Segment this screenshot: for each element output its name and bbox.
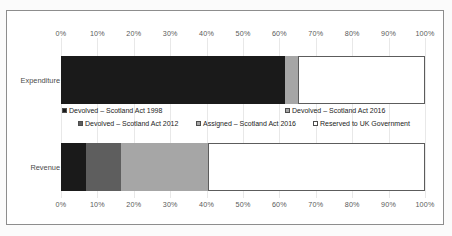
legend-item[interactable]: Devolved – Scotland Act 2016 bbox=[285, 106, 385, 115]
legend-swatch-icon bbox=[196, 121, 201, 126]
legend-label: Devolved – Scotland Act 2016 bbox=[292, 106, 385, 115]
bar-segment-expenditure-4 bbox=[298, 56, 425, 104]
tick-label-100%: 100% bbox=[408, 29, 442, 38]
tick-label-30%: 30% bbox=[153, 29, 187, 38]
bar-expenditure bbox=[0, 56, 452, 104]
legend-label: Devolved – Scotland Act 2012 bbox=[85, 119, 178, 128]
bar-segment-revenue-1 bbox=[86, 143, 121, 191]
legend-label: Assigned – Scotland Act 2016 bbox=[203, 119, 296, 128]
tick-label-30%: 30% bbox=[153, 200, 187, 209]
tick-label-60%: 60% bbox=[262, 200, 296, 209]
bar-segment-revenue-4 bbox=[208, 143, 425, 191]
tick-label-90%: 90% bbox=[372, 29, 406, 38]
legend-swatch-icon bbox=[78, 121, 83, 126]
legend-row-bottom: Devolved – Scotland Act 2012Assigned – S… bbox=[0, 119, 452, 131]
tick-label-50%: 50% bbox=[226, 29, 260, 38]
tick-label-90%: 90% bbox=[372, 200, 406, 209]
legend-item[interactable]: Reserved to UK Government bbox=[313, 119, 410, 128]
chart-figure: 0%10%20%30%40%50%60%70%80%90%100% 0%10%2… bbox=[0, 0, 452, 236]
tick-label-100%: 100% bbox=[408, 200, 442, 209]
tick-label-50%: 50% bbox=[226, 200, 260, 209]
bar-segment-revenue-2 bbox=[121, 143, 208, 191]
tick-label-40%: 40% bbox=[190, 29, 224, 38]
tick-label-20%: 20% bbox=[117, 200, 151, 209]
bar-segment-expenditure-0 bbox=[61, 56, 285, 104]
legend-item[interactable]: Devolved – Scotland Act 1998 bbox=[62, 106, 162, 115]
tick-label-70%: 70% bbox=[299, 200, 333, 209]
legend-label: Devolved – Scotland Act 1998 bbox=[69, 106, 162, 115]
bar-segment-revenue-0 bbox=[61, 143, 86, 191]
bar-revenue bbox=[0, 143, 452, 191]
legend-row-top: Devolved – Scotland Act 1998Devolved – S… bbox=[0, 106, 452, 118]
legend-swatch-icon bbox=[313, 121, 318, 126]
tick-label-10%: 10% bbox=[80, 29, 114, 38]
tick-label-20%: 20% bbox=[117, 29, 151, 38]
tick-label-0%: 0% bbox=[44, 29, 78, 38]
tick-label-0%: 0% bbox=[44, 200, 78, 209]
legend-item[interactable]: Assigned – Scotland Act 2016 bbox=[196, 119, 296, 128]
legend-swatch-icon bbox=[285, 108, 290, 113]
tick-label-60%: 60% bbox=[262, 29, 296, 38]
tick-label-70%: 70% bbox=[299, 29, 333, 38]
legend-swatch-icon bbox=[62, 108, 67, 113]
tick-label-10%: 10% bbox=[80, 200, 114, 209]
legend-label: Reserved to UK Government bbox=[320, 119, 410, 128]
bar-segment-expenditure-2 bbox=[285, 56, 298, 104]
tick-label-80%: 80% bbox=[335, 29, 369, 38]
legend-item[interactable]: Devolved – Scotland Act 2012 bbox=[78, 119, 178, 128]
tick-label-40%: 40% bbox=[190, 200, 224, 209]
tick-label-80%: 80% bbox=[335, 200, 369, 209]
plot-area: 0%10%20%30%40%50%60%70%80%90%100% 0%10%2… bbox=[0, 0, 452, 236]
